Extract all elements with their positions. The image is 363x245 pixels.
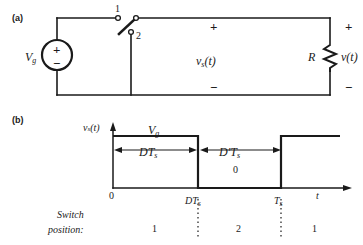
waveform-x-axis-arrowhead: [343, 185, 352, 191]
interval-1-label: DTs: [139, 143, 157, 160]
source-plus-sign: +: [53, 43, 60, 56]
switch-position-value-2: 2: [236, 224, 241, 234]
x-tick-label-ts: Ts: [274, 191, 283, 208]
vs-minus-sign: −: [210, 81, 217, 94]
switch-position-caption-line2: position:: [48, 225, 84, 235]
source-minus-sign: −: [53, 57, 60, 70]
switch-position-caption-line1: Switch: [57, 210, 84, 220]
output-plus-sign: +: [345, 20, 352, 33]
interval-1-arrow-left: [114, 147, 122, 153]
panel-a-label: (a): [12, 14, 23, 23]
waveform-high-level-label: Vg: [148, 121, 159, 138]
waveform-low-level-label: 0: [233, 165, 238, 175]
switch-terminal-2-label: 2: [136, 31, 141, 41]
output-minus-sign: −: [345, 81, 352, 94]
vs-plus-sign: +: [210, 20, 217, 33]
figure-container: (a) (b) Vg + − 1 2 + − vs(t) R + − v(t) …: [0, 0, 363, 245]
x-tick-label-0: 0: [109, 191, 114, 201]
switch-terminal-1-label: 1: [115, 4, 120, 14]
resistor-label: R: [308, 51, 315, 63]
resistor-symbol: [324, 45, 336, 72]
switch-terminal-2-contact[interactable]: [129, 30, 134, 35]
switch-position-value-1: 1: [152, 224, 157, 234]
switch-pivot-node[interactable]: [134, 16, 139, 21]
waveform-y-axis-label: vs(t): [83, 118, 100, 134]
vs-label: vs(t): [196, 52, 216, 69]
figure-vector-graphics: [0, 0, 363, 245]
interval-2-label: D′Ts: [219, 143, 240, 160]
switch-position-value-3: 1: [312, 224, 317, 234]
panel-b-label: (b): [12, 116, 24, 125]
waveform-y-axis-arrowhead: [110, 122, 116, 131]
switch-terminal-1-contact[interactable]: [116, 16, 121, 21]
x-tick-label-dts: DTs: [185, 191, 201, 208]
x-axis-label: t: [316, 191, 319, 201]
source-label: Vg: [25, 48, 36, 65]
interval-2-arrow-right: [273, 147, 281, 153]
interval-2-arrow-left: [200, 147, 208, 153]
output-voltage-label: v(t): [341, 51, 358, 63]
interval-1-arrow-right: [189, 147, 197, 153]
